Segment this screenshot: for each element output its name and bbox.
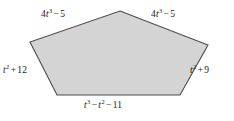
side-label-left: t2+12: [3, 66, 27, 76]
constant: 9: [204, 65, 209, 75]
side-label-right: t2+9: [190, 66, 209, 76]
operator-second: −: [105, 100, 113, 110]
side-label-bottom: t3−t2−11: [84, 101, 122, 111]
pentagon-figure: 4t3−5 4t3−5 t2+12 t2+9 t3−t2−11: [0, 0, 234, 121]
constant: 11: [113, 100, 122, 110]
side-label-top-right: 4t3−5: [151, 10, 175, 20]
side-label-top-left: 4t3−5: [41, 10, 65, 20]
pentagon-polygon: [30, 11, 208, 95]
constant: 5: [60, 9, 65, 19]
constant: 5: [170, 9, 175, 19]
constant: 12: [17, 65, 27, 75]
